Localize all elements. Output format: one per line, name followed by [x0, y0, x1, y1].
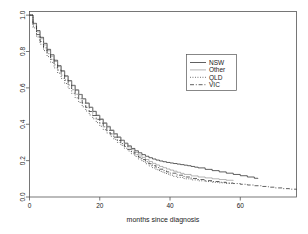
y-tick-label: 0.4	[19, 119, 26, 128]
legend[interactable]: NSWOtherQLDVIC	[187, 55, 237, 91]
survival-plot: 02040600.00.20.40.60.81.0 months since d…	[0, 0, 308, 234]
y-tick-label: 1.0	[19, 10, 26, 19]
x-tick-label: 40	[166, 202, 174, 209]
chart-root: 02040600.00.20.40.60.81.0 months since d…	[0, 0, 308, 234]
y-tick-label: 0.6	[19, 83, 26, 92]
y-tick-label: 0.0	[19, 192, 26, 201]
x-tick-label: 0	[28, 202, 32, 209]
x-tick-label: 60	[237, 202, 245, 209]
x-tick-label: 20	[96, 202, 104, 209]
legend-label-vic: VIC	[209, 81, 220, 88]
plot-background	[0, 0, 308, 234]
legend-label-other: Other	[209, 66, 226, 73]
legend-label-nsw: NSW	[209, 59, 225, 66]
y-tick-label: 0.2	[19, 156, 26, 165]
x-axis-title: months since diagnosis	[127, 216, 200, 224]
y-tick-label: 0.8	[19, 47, 26, 56]
